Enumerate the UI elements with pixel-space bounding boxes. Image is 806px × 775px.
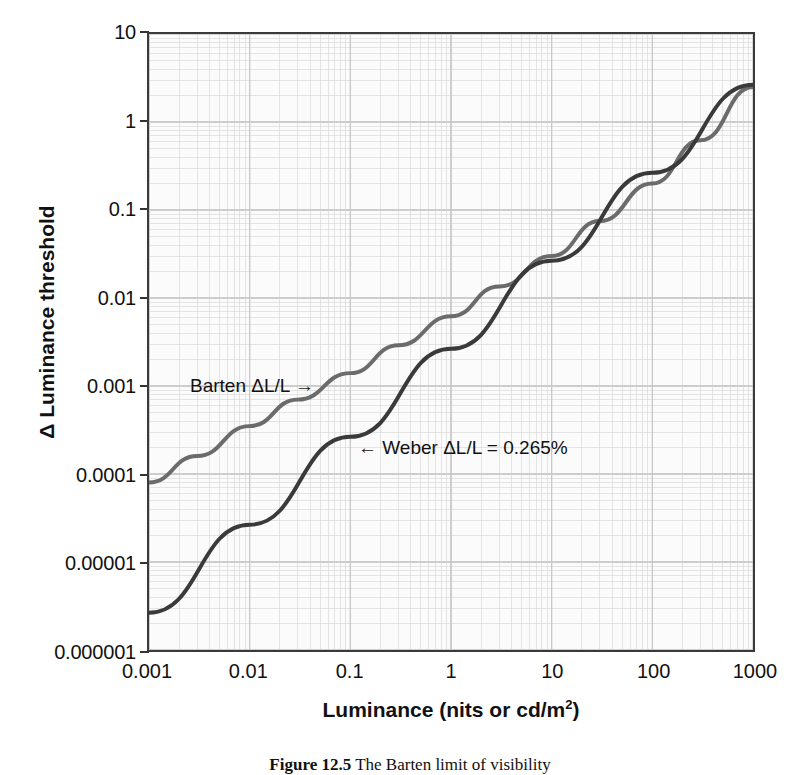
x-axis-tick-labels: 0.0010.010.11101001000	[147, 660, 755, 690]
x-axis-tick-label: 100	[637, 660, 670, 683]
annotation-barten: Barten ΔL/L →	[190, 375, 314, 397]
annotation-weber: ← Weber ΔL/L = 0.265%	[358, 437, 568, 459]
x-axis-tick-label: 10	[541, 660, 563, 683]
data-curves	[149, 34, 753, 650]
x-axis-tick-label: 0.001	[122, 660, 172, 683]
figure-caption-text: The Barten limit of visibility	[355, 755, 550, 774]
x-axis-title-close: )	[572, 698, 579, 721]
x-axis-tick-label: 1000	[733, 660, 778, 683]
x-axis-tick-label: 0.1	[336, 660, 364, 683]
figure-caption-label: Figure 12.5	[269, 755, 351, 774]
x-axis-tick-label: 0.01	[229, 660, 268, 683]
y-axis-tick-marks	[0, 32, 150, 652]
x-axis-tick-label: 1	[445, 660, 456, 683]
x-axis-title-main: Luminance (nits or cd/m	[323, 698, 566, 721]
plot-area	[147, 32, 755, 652]
figure-caption: Figure 12.5 The Barten limit of visibili…	[90, 755, 730, 775]
x-axis-title: Luminance (nits or cd/m2)	[147, 697, 755, 722]
